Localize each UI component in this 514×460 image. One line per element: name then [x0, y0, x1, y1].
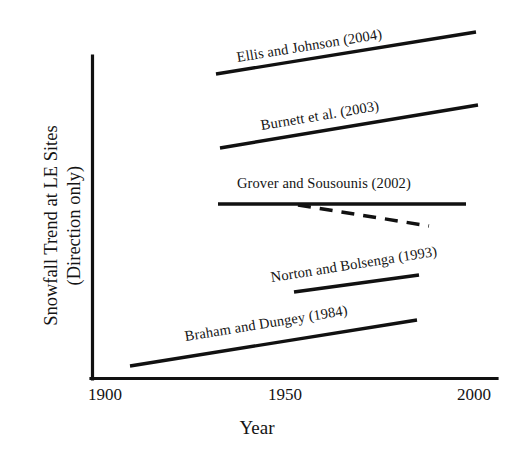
x-axis-title: Year	[0, 417, 514, 439]
y-axis-title: Snowfall Trend at LE Sites (Direction on…	[40, 101, 85, 351]
x-tick-label-1950: 1950	[268, 386, 302, 403]
y-axis-title-line-2: (Direction only)	[63, 101, 86, 351]
series-label-grover-sousounis-2002: Grover and Sousounis (2002)	[237, 176, 411, 191]
x-tick-label-1900: 1900	[88, 386, 122, 403]
trend-line-grover-sousounis-2002-dashed	[298, 205, 429, 226]
snowfall-trend-chart: Ellis and Johnson (2004) Burnett et al. …	[0, 0, 514, 460]
x-tick-label-2000: 2000	[457, 386, 491, 403]
y-axis-title-line-1: Snowfall Trend at LE Sites	[40, 101, 63, 351]
